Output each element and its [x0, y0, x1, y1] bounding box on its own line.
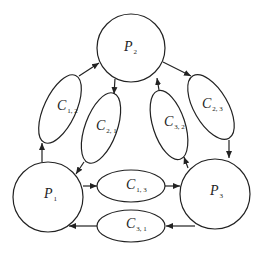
label-c12: C1, 2	[57, 99, 78, 113]
label-p1-sub: 1	[54, 195, 58, 203]
edge-p2-c21	[114, 79, 115, 94]
label-p1-main: P	[44, 186, 53, 201]
label-c31-main: C	[126, 216, 135, 231]
label-p3-main: P	[210, 183, 219, 198]
label-c21-sub: 2, 1	[106, 127, 117, 135]
label-c12-sub: 1, 2	[67, 107, 78, 115]
label-p2: P2	[124, 40, 137, 54]
label-c32-main: C	[164, 114, 173, 129]
label-c32-sub: 3, 2	[174, 123, 185, 131]
diagram-canvas: P2 P1 P3 C1, 2 C2, 1 C3, 2 C2, 3 C1, 3 C…	[0, 0, 263, 256]
edge-c21-p1	[76, 162, 84, 174]
label-c13: C1, 3	[126, 178, 147, 192]
edge-c12-p2	[79, 63, 99, 76]
label-c13-sub: 1, 3	[136, 186, 147, 194]
edge-c32-p2	[157, 78, 159, 90]
label-p2-main: P	[124, 39, 133, 54]
label-c31-sub: 3, 1	[136, 225, 147, 233]
label-c12-main: C	[57, 98, 66, 113]
edge-p2-c23	[163, 62, 191, 76]
label-p1: P1	[44, 187, 57, 201]
label-c13-main: C	[126, 177, 135, 192]
label-c32: C3, 2	[164, 115, 185, 129]
label-p3-sub: 3	[220, 192, 224, 200]
label-c31: C3, 1	[126, 217, 147, 231]
label-c21: C2, 1	[96, 119, 117, 133]
label-p3: P3	[210, 184, 223, 198]
label-c23-main: C	[202, 96, 211, 111]
label-c23: C2, 3	[202, 97, 223, 111]
label-c23-sub: 2, 3	[212, 105, 223, 113]
label-c21-main: C	[96, 118, 105, 133]
label-p2-sub: 2	[134, 48, 138, 56]
edge-p3-c32	[184, 157, 188, 168]
